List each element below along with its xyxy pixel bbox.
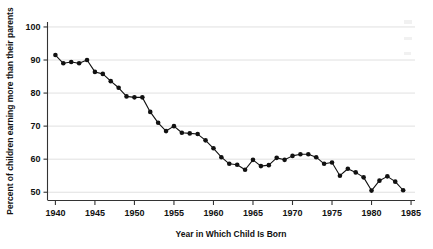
data-point-1943: [77, 61, 82, 66]
data-point-1947: [108, 79, 113, 84]
data-point-1966: [259, 164, 264, 169]
data-point-1963: [235, 163, 240, 168]
data-point-1972: [306, 152, 311, 157]
data-point-1974: [322, 162, 327, 167]
data-point-1967: [266, 163, 271, 168]
y-tick-label-80: 80: [30, 88, 40, 98]
data-point-1970: [290, 154, 295, 159]
data-point-1960: [211, 146, 216, 151]
data-point-1958: [195, 132, 200, 137]
data-point-1964: [243, 167, 248, 172]
data-point-1962: [227, 162, 232, 167]
data-point-1979: [361, 175, 366, 180]
data-point-1961: [219, 155, 224, 160]
x-tick-label-1950: 1950: [124, 208, 144, 218]
y-tick-label-100: 100: [25, 22, 40, 32]
x-tick-label-1965: 1965: [243, 208, 263, 218]
y-tick-label-50: 50: [30, 187, 40, 197]
data-point-1971: [298, 152, 303, 157]
data-point-1977: [346, 166, 351, 171]
data-point-1951: [140, 95, 145, 100]
x-tick-label-1955: 1955: [164, 208, 184, 218]
data-point-1954: [164, 129, 169, 134]
x-axis-title: Year in Which Child Is Born: [176, 229, 287, 239]
data-point-1969: [282, 158, 287, 163]
x-tick-label-1975: 1975: [322, 208, 342, 218]
data-point-1982: [385, 174, 390, 179]
x-tick-label-1940: 1940: [45, 208, 65, 218]
data-point-1957: [187, 131, 192, 136]
data-point-1978: [353, 170, 358, 175]
data-point-1959: [203, 138, 208, 143]
data-point-1976: [338, 173, 343, 178]
y-tick-label-90: 90: [30, 55, 40, 65]
data-point-1975: [330, 160, 335, 165]
data-point-1952: [148, 110, 153, 115]
data-point-1950: [132, 95, 137, 100]
y-tick-label-60: 60: [30, 154, 40, 164]
y-axis-title: Percent of children earning more than th…: [5, 7, 15, 215]
data-point-1955: [172, 124, 177, 129]
x-tick-label-1980: 1980: [362, 208, 382, 218]
data-point-1965: [251, 158, 256, 163]
data-point-1984: [401, 188, 406, 193]
data-point-1946: [101, 72, 106, 77]
data-point-1942: [69, 60, 74, 65]
x-tick-label-1985: 1985: [401, 208, 421, 218]
x-tick-label-1945: 1945: [85, 208, 105, 218]
data-point-1941: [61, 61, 66, 66]
data-point-1981: [377, 178, 382, 183]
data-point-1956: [180, 130, 185, 135]
data-point-1945: [93, 70, 98, 75]
data-point-1980: [369, 188, 374, 193]
data-point-1973: [314, 155, 319, 160]
mobility-line-chart: 5060708090100 19401945195019551960196519…: [0, 0, 433, 249]
data-point-1940: [53, 53, 58, 58]
data-point-1983: [393, 179, 398, 184]
data-point-1948: [116, 85, 121, 90]
y-tick-label-70: 70: [30, 121, 40, 131]
data-point-1944: [85, 58, 90, 63]
data-point-1968: [274, 156, 279, 161]
x-tick-label-1960: 1960: [203, 208, 223, 218]
data-point-1949: [124, 94, 129, 99]
x-tick-label-1970: 1970: [282, 208, 302, 218]
data-point-1953: [156, 121, 161, 126]
chart-container: 5060708090100 19401945195019551960196519…: [0, 0, 433, 249]
